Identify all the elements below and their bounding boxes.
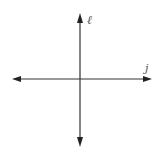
down-arrowhead-icon <box>77 137 83 147</box>
right-arrowhead-icon <box>143 76 152 82</box>
axes-diagram: ℓ j <box>0 0 164 155</box>
vertical-axis <box>77 13 83 147</box>
vertical-axis-label: ℓ <box>87 13 92 27</box>
left-arrowhead-icon <box>12 76 21 82</box>
up-arrowhead-icon <box>77 13 83 23</box>
horizontal-axis <box>12 76 152 82</box>
horizontal-axis-label: j <box>142 62 149 75</box>
